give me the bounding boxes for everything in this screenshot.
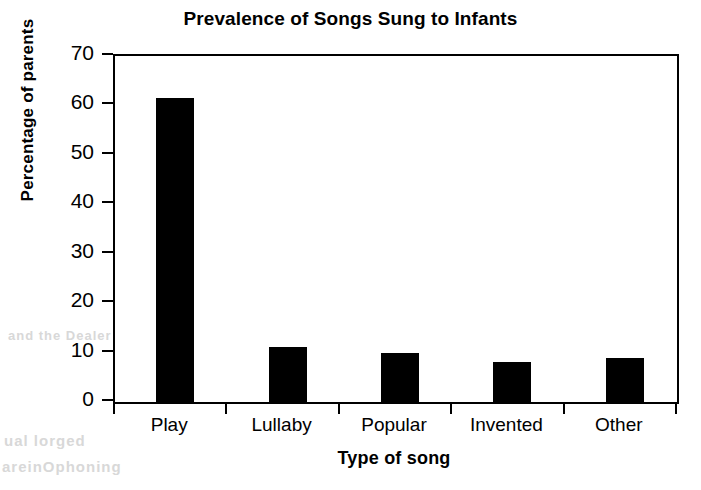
y-tick-mark [102,399,113,401]
bar-other [606,358,644,402]
x-tick-mark [450,402,452,414]
y-tick-label: 50 [52,140,94,164]
y-tick-label: 40 [52,189,94,213]
x-tick-mark [113,402,115,414]
y-tick-mark [102,53,113,55]
x-axis-title: Type of song [113,448,675,469]
y-tick-mark [102,300,113,302]
scan-artifact: ual lorged [4,432,86,449]
y-tick-mark [102,152,113,154]
y-tick-label: 30 [52,239,94,263]
bar-popular [381,353,419,402]
bar-invented [493,362,531,402]
bar-lullaby [269,347,307,402]
x-tick-mark [675,402,677,414]
y-tick-label: 10 [52,338,94,362]
y-tick-label: 70 [52,41,94,65]
y-tick-label: 60 [52,90,94,114]
y-tick-mark [102,251,113,253]
bar-play [156,98,194,402]
x-tick-mark [338,402,340,414]
x-tick-mark [563,402,565,414]
y-tick-label: 0 [52,387,94,411]
y-tick-mark [102,201,113,203]
chart-title: Prevalence of Songs Sung to Infants [0,8,701,30]
y-tick-mark [102,350,113,352]
bars-layer [115,56,677,402]
y-tick-label: 20 [52,288,94,312]
scan-artifact: areinOphoning [2,458,122,475]
plot-area [113,54,679,404]
x-tick-label-other: Other [549,414,689,436]
y-tick-mark [102,102,113,104]
x-tick-mark [225,402,227,414]
y-axis-title: Percentage of parents [18,0,38,250]
